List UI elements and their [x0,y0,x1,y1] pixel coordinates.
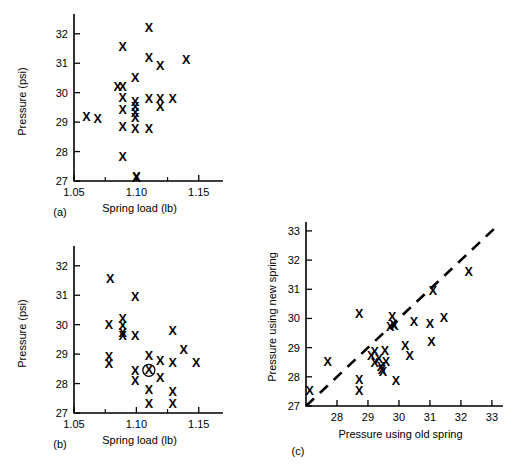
y-ticklabel-a-5: 32 [56,28,68,40]
panel-b-scatter-spring-load-vs-pressure: 2728293031321.051.101.15XXXXXXXXXXXXXXXX… [0,232,262,454]
y-ticklabel-c-2: 29 [288,342,300,354]
data-point-c-22: X [426,317,435,331]
panel-a-scatter-spring-load-vs-pressure: 2728293031321.051.101.15XXXXXXXXXXXXXXXX… [0,0,262,222]
data-point-a-21: X [156,59,165,73]
y-ticklabel-b-4: 31 [56,289,68,301]
x-ticklabel-c-1: 29 [362,411,374,423]
data-point-c-13: X [382,355,391,369]
x-ticklabel-c-4: 32 [455,411,467,423]
panel-c-scatter-old-vs-new-spring: 27282930313233282930313233XXXXXXXXXXXXXX… [262,210,523,470]
data-point-b-3: X [105,357,114,371]
plot-area-b: 2728293031321.051.101.15XXXXXXXXXXXXXXXX… [16,246,223,450]
panel-label-b: (b) [53,438,66,450]
data-point-c-18: X [392,374,401,388]
data-point-c-20: X [406,349,415,363]
x-ticklabel-c-2: 30 [393,411,405,423]
data-point-c-26: X [464,265,473,279]
data-point-a-4: X [118,40,127,54]
y-axis-title-b: Pressure (psi) [16,299,28,367]
data-point-c-23: X [427,335,436,349]
data-point-a-20: X [145,122,154,136]
x-ticklabel-c-3: 31 [424,411,436,423]
data-point-b-1: X [105,318,114,332]
x-axis-title-b: Spring load (lb) [102,434,177,446]
data-point-a-24: X [168,92,177,106]
data-point-a-0: X [82,110,91,124]
data-point-b-16: X [156,354,165,368]
plot-area-c: 27282930313233282930313233XXXXXXXXXXXXXX… [266,222,503,457]
data-point-a-8: X [118,150,127,164]
data-point-c-17: X [390,319,399,333]
y-ticklabel-c-1: 28 [288,371,300,383]
data-point-b-0: X [106,272,115,286]
x-ticklabel-a-1: 1.10 [126,186,147,198]
data-point-a-7: X [118,120,127,134]
data-point-b-12: X [145,349,154,363]
y-ticklabel-b-2: 29 [56,348,68,360]
data-point-c-0: X [306,384,315,398]
y-ticklabel-c-4: 31 [288,283,300,295]
data-point-b-21: X [168,397,177,411]
data-point-a-6: X [118,103,127,117]
reference-line-c [306,228,495,406]
data-point-a-9: X [131,71,140,85]
data-point-b-7: X [118,329,127,343]
data-point-b-19: X [168,356,177,370]
data-point-b-8: X [131,290,140,304]
data-point-b-23: X [192,356,201,370]
data-point-b-22: X [180,343,189,357]
panel-c-svg: 27282930313233282930313233XXXXXXXXXXXXXX… [262,210,523,470]
data-point-c-2: X [355,307,364,321]
data-point-a-18: X [145,51,154,65]
data-point-a-17: X [145,21,154,35]
x-ticklabel-b-1: 1.10 [126,418,147,430]
x-axis-title-c: Pressure using old spring [338,428,462,440]
x-ticklabel-a-0: 1.05 [63,186,84,198]
y-ticklabel-b-5: 32 [56,260,68,272]
y-ticklabel-b-3: 30 [56,319,68,331]
data-point-a-23: X [156,100,165,114]
data-point-c-21: X [410,315,419,329]
y-ticklabel-c-0: 27 [288,400,300,412]
y-ticklabel-b-1: 28 [56,378,68,390]
y-ticklabel-c-5: 32 [288,254,300,266]
panel-label-c: (c) [292,445,305,457]
plot-area-a: 2728293031321.051.101.15XXXXXXXXXXXXXXXX… [16,14,223,218]
data-point-a-1: X [94,112,103,126]
y-ticklabel-c-6: 33 [288,225,300,237]
y-ticklabel-a-2: 29 [56,116,68,128]
x-axis-title-a: Spring load (lb) [102,202,177,214]
x-ticklabel-c-5: 33 [486,411,498,423]
y-ticklabel-a-4: 31 [56,57,68,69]
x-ticklabel-b-2: 1.15 [188,418,209,430]
x-ticklabel-a-2: 1.15 [188,186,209,198]
data-point-a-19: X [145,92,154,106]
y-ticklabel-a-3: 30 [56,87,68,99]
panel-a-svg: 2728293031321.051.101.15XXXXXXXXXXXXXXXX… [0,0,262,222]
data-point-c-1: X [324,355,333,369]
panel-label-a: (a) [53,206,66,218]
data-point-a-16: X [132,171,141,185]
data-point-c-25: X [440,311,449,325]
data-point-b-17: X [156,371,165,385]
x-ticklabel-b-0: 1.05 [63,418,84,430]
data-point-c-4: X [355,384,364,398]
data-point-a-14: X [131,122,140,136]
y-ticklabel-c-3: 30 [288,312,300,324]
panel-b-svg: 2728293031321.051.101.15XXXXXXXXXXXXXXXX… [0,232,262,454]
data-point-b-14: X [145,383,154,397]
x-ticklabel-c-0: 28 [331,411,343,423]
data-point-b-15: X [145,397,154,411]
data-point-b-18: X [168,324,177,338]
y-ticklabel-a-1: 28 [56,146,68,158]
y-axis-title-a: Pressure (psi) [16,67,28,135]
data-point-b-11: X [131,374,140,388]
y-axis-title-c: Pressure using new spring [266,252,278,382]
data-point-b-9: X [131,329,140,343]
data-point-a-25: X [182,53,191,67]
data-point-c-24: X [429,284,438,298]
